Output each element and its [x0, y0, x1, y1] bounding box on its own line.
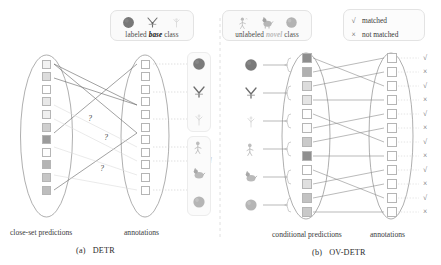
- label-conditional-predictions: conditional predictions: [272, 230, 342, 239]
- not-matched-cross-icon: ×: [421, 207, 429, 216]
- prediction-node: [302, 137, 312, 147]
- matched-check-icon: √: [421, 109, 429, 118]
- thumb-ball-gray-b: [245, 199, 256, 210]
- not-matched-cross-icon: ×: [421, 179, 429, 188]
- conditioned-thumbnail-layer-b: [0, 0, 441, 265]
- prediction-node: [302, 109, 312, 119]
- annotation-node: [387, 81, 397, 91]
- not-matched-cross-icon: ×: [421, 95, 429, 104]
- caption-b-name: OV-DETR: [329, 248, 366, 257]
- annotation-node: [387, 151, 397, 161]
- prediction-node: [302, 207, 312, 217]
- annotation-node: [387, 179, 397, 189]
- annotation-node: [387, 207, 397, 217]
- matched-check-icon: √: [421, 137, 429, 146]
- prediction-node: [302, 67, 312, 77]
- matched-check-icon: √: [421, 81, 429, 90]
- annotation-node: [387, 95, 397, 105]
- prediction-node: [302, 53, 312, 63]
- not-matched-cross-icon: ×: [421, 151, 429, 160]
- prediction-node: [302, 95, 312, 105]
- annotation-node: [387, 67, 397, 77]
- matched-check-icon: √: [421, 165, 429, 174]
- thumb-bird-b: [246, 88, 256, 98]
- not-matched-cross-icon: ×: [421, 67, 429, 76]
- annotation-node: [387, 109, 397, 119]
- prediction-node: [302, 81, 312, 91]
- prediction-node: [302, 151, 312, 161]
- thumb-person-faint-b: [247, 144, 253, 156]
- prediction-node: [302, 193, 312, 203]
- prediction-node: [302, 165, 312, 175]
- caption-panel-b: (b)OV-DETR: [312, 248, 366, 257]
- annotation-node: [387, 137, 397, 147]
- prediction-node: [302, 179, 312, 189]
- thumb-plant-faint-b: [248, 117, 254, 127]
- matched-check-icon: √: [421, 53, 429, 62]
- prediction-node: [302, 123, 312, 133]
- thumb-dog-b: [246, 171, 257, 181]
- figure-root: labeled base class: [0, 0, 441, 265]
- thumb-ball-dark-b: [245, 59, 257, 71]
- annotation-node: [387, 53, 397, 63]
- annotation-node: [387, 123, 397, 133]
- annotation-node: [387, 165, 397, 175]
- not-matched-cross-icon: ×: [421, 123, 429, 132]
- caption-b-id: (b): [312, 248, 322, 257]
- label-annotations-b: annotations: [370, 230, 405, 239]
- matched-check-icon: √: [421, 193, 429, 202]
- annotation-node: [387, 193, 397, 203]
